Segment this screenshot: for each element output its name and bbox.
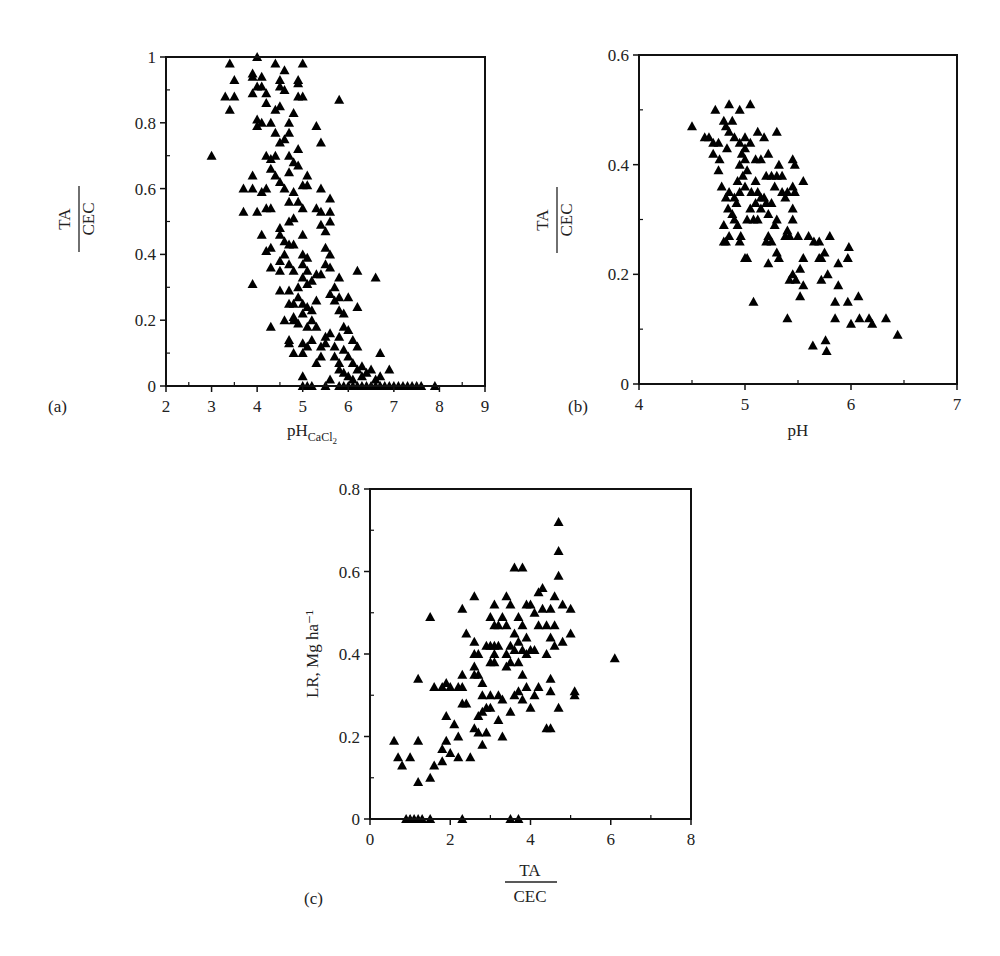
data-point-triangle-icon bbox=[724, 99, 734, 108]
y-tick-label: 0.4 bbox=[339, 645, 361, 664]
data-point-triangle-icon bbox=[289, 187, 299, 196]
data-point-triangle-icon bbox=[735, 105, 745, 114]
panel-a-points bbox=[207, 52, 440, 390]
data-point-triangle-icon bbox=[469, 661, 479, 670]
data-point-triangle-icon bbox=[453, 732, 463, 741]
data-point-triangle-icon bbox=[505, 600, 515, 609]
data-point-triangle-icon bbox=[795, 291, 805, 300]
data-point-triangle-icon bbox=[298, 230, 308, 239]
data-point-triangle-icon bbox=[371, 272, 381, 281]
data-point-triangle-icon bbox=[248, 279, 258, 288]
data-point-triangle-icon bbox=[517, 670, 527, 679]
data-point-triangle-icon bbox=[751, 176, 761, 185]
data-point-triangle-icon bbox=[708, 149, 718, 158]
data-point-triangle-icon bbox=[293, 197, 303, 206]
data-point-triangle-icon bbox=[521, 682, 531, 691]
data-point-triangle-icon bbox=[825, 231, 835, 240]
y-tick-label: 0 bbox=[621, 375, 630, 394]
data-point-triangle-icon bbox=[220, 91, 230, 100]
data-point-triangle-icon bbox=[279, 65, 289, 74]
data-point-triangle-icon bbox=[339, 345, 349, 354]
data-point-triangle-icon bbox=[316, 351, 326, 360]
data-point-triangle-icon bbox=[261, 184, 271, 193]
data-point-triangle-icon bbox=[526, 703, 536, 712]
data-point-triangle-icon bbox=[238, 207, 248, 216]
y-tick-label: 0.8 bbox=[135, 114, 156, 133]
data-point-triangle-icon bbox=[457, 670, 467, 679]
data-point-triangle-icon bbox=[366, 365, 376, 374]
data-point-triangle-icon bbox=[723, 204, 733, 213]
data-point-triangle-icon bbox=[384, 365, 394, 374]
data-point-triangle-icon bbox=[375, 371, 385, 380]
data-point-triangle-icon bbox=[275, 286, 285, 295]
data-point-triangle-icon bbox=[833, 258, 843, 267]
data-point-triangle-icon bbox=[348, 335, 358, 344]
data-point-triangle-icon bbox=[334, 272, 344, 281]
data-point-triangle-icon bbox=[316, 220, 326, 229]
data-point-triangle-icon bbox=[393, 752, 403, 761]
panel-c-label: (c) bbox=[304, 889, 323, 908]
data-point-triangle-icon bbox=[279, 315, 289, 324]
data-point-triangle-icon bbox=[334, 332, 344, 341]
data-point-triangle-icon bbox=[298, 371, 308, 380]
panel-a-ylabel-den: CEC bbox=[79, 202, 98, 235]
data-point-triangle-icon bbox=[225, 59, 235, 68]
data-point-triangle-icon bbox=[307, 335, 317, 344]
data-point-triangle-icon bbox=[509, 562, 519, 571]
panel-a-xlabel-subscript: CaCl bbox=[308, 430, 333, 444]
data-point-triangle-icon bbox=[505, 707, 515, 716]
data-point-triangle-icon bbox=[740, 132, 750, 141]
data-point-triangle-icon bbox=[266, 164, 276, 173]
panel-c: 0246800.20.40.60.8 LR, Mg ha⁻¹ TA CEC (c… bbox=[303, 480, 695, 908]
data-point-triangle-icon bbox=[266, 118, 276, 127]
data-point-triangle-icon bbox=[248, 170, 258, 179]
panel-c-xlabel-num: TA bbox=[519, 861, 541, 880]
data-point-triangle-icon bbox=[736, 231, 746, 240]
data-point-triangle-icon bbox=[843, 253, 853, 262]
data-point-triangle-icon bbox=[493, 715, 503, 724]
panel-a-xlabel: pHCaCl2 bbox=[287, 421, 337, 446]
panel-b-xlabel: pH bbox=[788, 421, 809, 440]
data-point-triangle-icon bbox=[566, 628, 576, 637]
data-point-triangle-icon bbox=[719, 116, 729, 125]
data-point-triangle-icon bbox=[266, 263, 276, 272]
data-point-triangle-icon bbox=[530, 690, 540, 699]
data-point-triangle-icon bbox=[248, 184, 258, 193]
x-tick-label: 6 bbox=[344, 397, 353, 416]
data-point-triangle-icon bbox=[397, 760, 407, 769]
data-point-triangle-icon bbox=[389, 736, 399, 745]
data-point-triangle-icon bbox=[316, 138, 326, 147]
data-point-triangle-icon bbox=[252, 207, 262, 216]
panel-b-frame bbox=[639, 55, 957, 384]
data-point-triangle-icon bbox=[477, 690, 487, 699]
x-tick-label: 5 bbox=[741, 395, 750, 414]
data-point-triangle-icon bbox=[429, 682, 439, 691]
data-point-triangle-icon bbox=[795, 264, 805, 273]
x-tick-label: 7 bbox=[390, 397, 399, 416]
data-point-triangle-icon bbox=[710, 105, 720, 114]
data-point-triangle-icon bbox=[554, 517, 564, 526]
data-point-triangle-icon bbox=[554, 546, 564, 555]
panel-b-ticks: 456700.20.40.6 bbox=[608, 46, 962, 414]
data-point-triangle-icon bbox=[275, 266, 285, 275]
data-point-triangle-icon bbox=[325, 217, 335, 226]
data-point-triangle-icon bbox=[465, 752, 475, 761]
data-point-triangle-icon bbox=[449, 719, 459, 728]
data-point-triangle-icon bbox=[501, 591, 511, 600]
x-tick-label: 6 bbox=[607, 830, 616, 849]
data-point-triangle-icon bbox=[298, 59, 308, 68]
data-point-triangle-icon bbox=[343, 292, 353, 301]
data-point-triangle-icon bbox=[284, 118, 294, 127]
y-tick-label: 1 bbox=[148, 48, 157, 67]
data-point-triangle-icon bbox=[763, 149, 773, 158]
data-point-triangle-icon bbox=[742, 215, 752, 224]
data-point-triangle-icon bbox=[311, 295, 321, 304]
data-point-triangle-icon bbox=[481, 727, 491, 736]
data-point-triangle-icon bbox=[229, 91, 239, 100]
panel-a: 2345678900.20.40.60.81 TA CEC pHCaCl2 (a… bbox=[48, 48, 489, 446]
panel-a-ticks: 2345678900.20.40.60.81 bbox=[135, 48, 490, 416]
panel-a-ylabel: TA CEC bbox=[55, 186, 98, 252]
data-point-triangle-icon bbox=[413, 777, 423, 786]
data-point-triangle-icon bbox=[748, 297, 758, 306]
data-point-triangle-icon bbox=[352, 302, 362, 311]
